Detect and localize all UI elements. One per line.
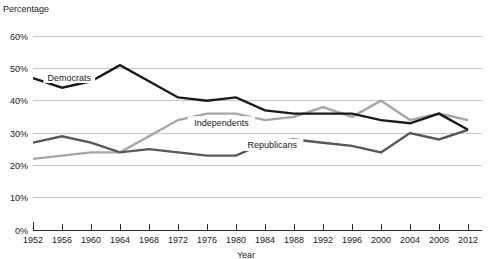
y-tick-label-50: 50% (10, 64, 28, 74)
x-tick-label-1988: 1988 (284, 235, 304, 245)
y-tick-labels-group: 0%10%20%30%40%50%60% (10, 32, 28, 236)
tickmarks-group (33, 222, 482, 230)
chart-container: DemocratsRepublicansIndependents 0%10%20… (0, 0, 489, 259)
series-label-democrats: Democrats (47, 73, 91, 83)
x-tick-label-2012: 2012 (458, 235, 478, 245)
x-tick-label-1960: 1960 (81, 235, 101, 245)
x-axis-title: Year (237, 250, 255, 259)
x-tick-label-1964: 1964 (110, 235, 130, 245)
line-chart: DemocratsRepublicansIndependents 0%10%20… (0, 0, 489, 259)
series-label-independents: Independents (194, 118, 249, 128)
x-tick-label-1956: 1956 (52, 235, 72, 245)
y-axis-title: Percentage (3, 4, 49, 14)
x-tick-label-1992: 1992 (313, 235, 333, 245)
gridlines-group (33, 36, 482, 198)
y-tick-label-30: 30% (10, 129, 28, 139)
x-tick-label-1972: 1972 (168, 235, 188, 245)
x-tick-labels-group: 1952195619601964196819721976198019841988… (23, 235, 478, 245)
y-tick-label-20: 20% (10, 161, 28, 171)
x-tick-label-2000: 2000 (371, 235, 391, 245)
x-tick-label-1952: 1952 (23, 235, 43, 245)
x-tick-label-1968: 1968 (139, 235, 159, 245)
y-tick-label-40: 40% (10, 96, 28, 106)
x-tick-label-1984: 1984 (255, 235, 275, 245)
y-tick-label-60: 60% (10, 32, 28, 42)
x-tick-label-1996: 1996 (342, 235, 362, 245)
series-label-republicans: Republicans (247, 140, 297, 150)
x-tick-label-1980: 1980 (226, 235, 246, 245)
x-tick-label-2008: 2008 (429, 235, 449, 245)
x-tick-label-2004: 2004 (400, 235, 420, 245)
y-tick-label-10: 10% (10, 193, 28, 203)
y-tick-label-0: 0% (15, 226, 28, 236)
x-tick-label-1976: 1976 (197, 235, 217, 245)
